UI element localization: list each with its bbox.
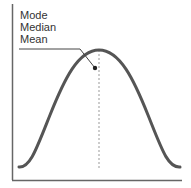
label-leader-line: [19, 49, 95, 68]
median-label: Median: [20, 21, 56, 33]
leader-dot: [93, 66, 97, 70]
mean-label: Mean: [20, 33, 48, 45]
mode-label: Mode: [20, 9, 48, 21]
